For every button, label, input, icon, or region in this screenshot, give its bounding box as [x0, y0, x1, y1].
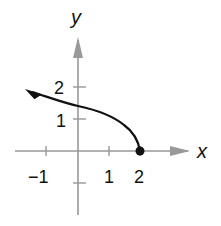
- y-axis-arrow-icon: [73, 37, 83, 58]
- x-tick-label-2: 2: [134, 167, 144, 187]
- y-tick-label-1: 1: [56, 111, 66, 131]
- x-tick-label--1: −1: [28, 167, 49, 187]
- x-axis-label: x: [196, 140, 208, 162]
- endpoint-dot: [136, 147, 145, 156]
- function-curve: [32, 92, 140, 151]
- x-axis-arrow-icon: [170, 146, 190, 156]
- x-tick-label-1: 1: [104, 167, 114, 187]
- y-tick-label-2: 2: [54, 78, 64, 98]
- graph: y x 2 1 −1 1 2: [0, 0, 221, 226]
- curve-arrow-icon: [23, 89, 42, 101]
- coordinate-plane: y x 2 1 −1 1 2: [0, 0, 221, 226]
- y-axis-label: y: [69, 6, 82, 28]
